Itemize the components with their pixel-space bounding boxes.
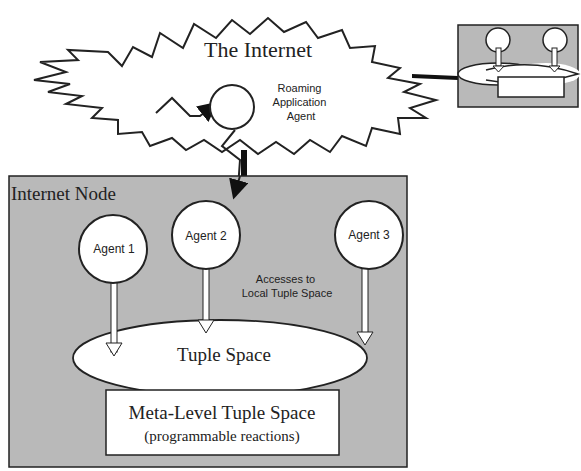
remote-link: [412, 74, 458, 80]
roaming-agent-circle: [210, 85, 254, 129]
agent-2-label: Agent 2: [185, 229, 227, 243]
meta-level-title: Meta-Level Tuple Space: [129, 402, 316, 423]
internet-node-title: Internet Node: [11, 183, 116, 204]
internet-link: [241, 150, 247, 178]
internet-title: The Internet: [204, 37, 312, 62]
agent-1-label: Agent 1: [93, 242, 135, 256]
agent-3-label: Agent 3: [348, 228, 390, 242]
tuple-space-label: Tuple Space: [177, 344, 271, 365]
meta-level-subtitle: (programmable reactions): [144, 428, 299, 445]
remote-internet-node: [458, 25, 580, 107]
diagram-canvas: The Internet Roaming Application Agent I…: [0, 0, 581, 471]
